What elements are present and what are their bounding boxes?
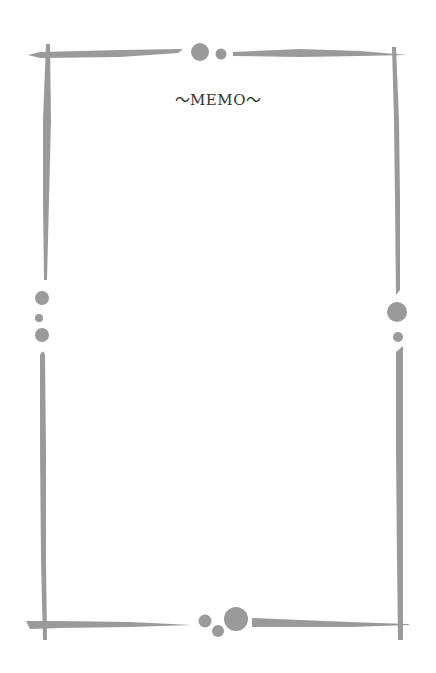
frame-top-right-bar <box>233 49 408 57</box>
frame-left-dot-2 <box>35 314 43 322</box>
frame-top-left-bar <box>28 49 183 58</box>
frame-bottom-dot-2 <box>212 625 224 637</box>
frame-left-lower-bar <box>40 352 47 641</box>
frame-left-dot-3 <box>35 328 49 342</box>
memo-title: ～MEMO～ <box>0 88 436 109</box>
frame-left-dot-1 <box>35 291 49 305</box>
frame-right-dot-small <box>393 332 403 342</box>
frame-right-lower-bar <box>396 346 403 640</box>
frame-left-upper-bar <box>43 44 51 280</box>
frame-top-dot-large <box>191 43 209 61</box>
frame-top-dot-small <box>216 49 227 60</box>
frame-bottom-dot-1 <box>199 615 212 628</box>
frame-bottom-right-bar <box>252 618 410 627</box>
frame-bottom-dot-3 <box>224 607 248 631</box>
frame-bottom-left-bar <box>26 621 192 629</box>
frame-right-upper-bar <box>392 47 400 295</box>
frame-right-dot-large <box>387 302 407 322</box>
